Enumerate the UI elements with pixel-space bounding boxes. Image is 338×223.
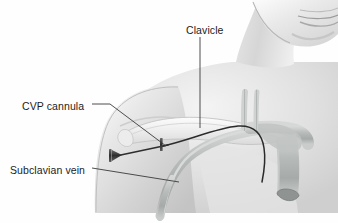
label-subclavian-vein: Subclavian vein [10,164,85,176]
label-clavicle: Clavicle [186,24,224,36]
external-jugular-vein [256,92,257,128]
internal-jugular-vein [244,92,245,128]
label-cvp-cannula: CVP cannula [22,100,84,112]
cvp-cannula-illustration: Clavicle CVP cannula Subclavian vein [0,0,338,223]
hub-flange [109,149,112,162]
cannula-wing [160,138,163,151]
